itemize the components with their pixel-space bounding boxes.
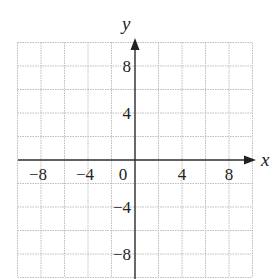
y-axis-label: y bbox=[120, 13, 131, 34]
x-tick-label: −8 bbox=[29, 165, 47, 184]
y-tick-label: 8 bbox=[123, 57, 132, 76]
y-tick-label: −4 bbox=[113, 198, 132, 217]
x-tick-label: 4 bbox=[178, 165, 187, 184]
y-tick-label: 4 bbox=[123, 104, 132, 123]
y-axis-arrow-icon bbox=[131, 38, 140, 50]
x-axis-label: x bbox=[260, 149, 270, 170]
x-tick-label: 8 bbox=[225, 165, 234, 184]
x-tick-label: 0 bbox=[119, 165, 128, 184]
coordinate-plane: −8−404884−4−8 x y bbox=[0, 0, 279, 279]
y-tick-label: −8 bbox=[113, 245, 131, 264]
axes bbox=[18, 38, 256, 279]
x-tick-label: −4 bbox=[76, 165, 95, 184]
x-axis-arrow-icon bbox=[244, 156, 256, 165]
